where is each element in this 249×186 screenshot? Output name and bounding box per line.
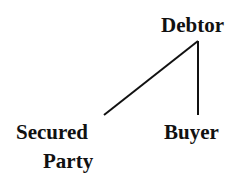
node-secured-party-line1: Secured — [16, 122, 88, 143]
node-buyer: Buyer — [164, 122, 219, 143]
edge-debtor-secured-party — [104, 41, 198, 115]
node-debtor: Debtor — [161, 15, 224, 36]
node-secured-party-line2: Party — [43, 151, 93, 172]
